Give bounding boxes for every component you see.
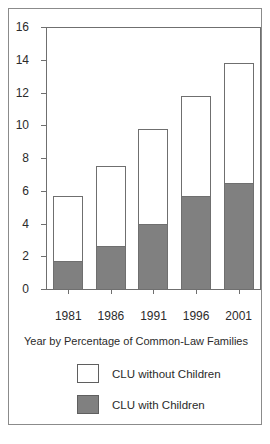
x-axis-tick-mark: [196, 289, 197, 294]
x-axis-tick-label: 1996: [175, 309, 218, 323]
x-axis-line: [41, 289, 261, 290]
y-axis-tick-label: 10: [0, 119, 29, 131]
y-axis-tick-label: 4: [0, 218, 29, 230]
x-axis-tick-label: 1981: [47, 309, 90, 323]
stacked-bar[interactable]: [138, 129, 168, 289]
x-axis-tick-mark: [239, 289, 240, 294]
x-axis-caption: Year by Percentage of Common-Law Familie…: [9, 335, 263, 347]
legend-swatch-gray: [77, 395, 99, 414]
legend-swatch-white: [77, 364, 99, 383]
bar-segment-with-children[interactable]: [182, 196, 210, 289]
y-axis-tick-label: 6: [0, 185, 29, 197]
bar-segment-with-children[interactable]: [97, 246, 125, 289]
bar-group: [47, 27, 260, 289]
x-axis-tick-label: 1991: [132, 309, 175, 323]
x-axis-tick-mark: [153, 289, 154, 294]
y-axis-tick-label: 0: [0, 283, 29, 295]
chart-legend: CLU without ChildrenCLU with Children: [9, 364, 263, 426]
y-axis-tick-label: 16: [0, 21, 29, 33]
plot-area: 0246810121416: [37, 27, 261, 309]
y-axis-tick-label: 14: [0, 54, 29, 66]
x-axis-tick-label: 2001: [217, 309, 260, 323]
legend-label: CLU with Children: [112, 399, 205, 411]
bar-segment-with-children[interactable]: [54, 261, 82, 289]
x-axis-tick-labels: 19811986199119962001: [47, 309, 260, 327]
bar-segment-with-children[interactable]: [139, 224, 167, 290]
x-axis-tick-mark: [68, 289, 69, 294]
bar-column[interactable]: [96, 27, 126, 289]
legend-item[interactable]: CLU without Children: [9, 364, 263, 383]
stacked-bar[interactable]: [224, 63, 254, 289]
stacked-bar[interactable]: [181, 96, 211, 289]
y-axis-tick-label: 8: [0, 152, 29, 164]
stacked-bar[interactable]: [53, 196, 83, 289]
x-axis-tick-mark: [111, 289, 112, 294]
y-axis-tick-label: 12: [0, 87, 29, 99]
legend-item[interactable]: CLU with Children: [9, 395, 263, 414]
bar-column[interactable]: [181, 27, 211, 289]
legend-label: CLU without Children: [112, 368, 221, 380]
bar-column[interactable]: [53, 27, 83, 289]
bar-column[interactable]: [224, 27, 254, 289]
bar-column[interactable]: [138, 27, 168, 289]
bar-segment-with-children[interactable]: [225, 183, 253, 289]
chart-figure: 0246810121416 19811986199119962001 Year …: [8, 8, 262, 425]
y-axis-tick-label: 2: [0, 250, 29, 262]
x-axis-tick-label: 1986: [90, 309, 133, 323]
stacked-bar[interactable]: [96, 166, 126, 289]
